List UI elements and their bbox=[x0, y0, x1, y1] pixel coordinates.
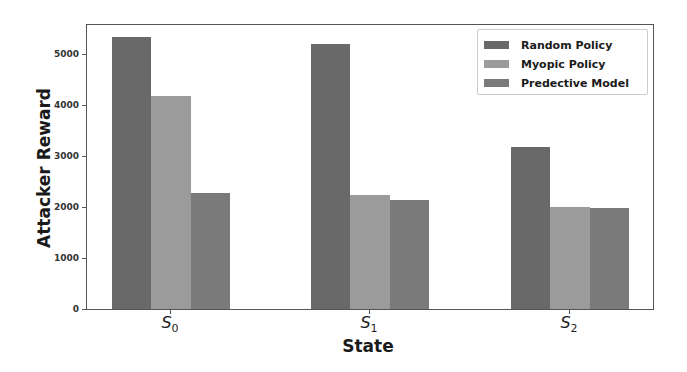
y-axis-label: Attacker Reward bbox=[34, 88, 54, 248]
y-tick-label: 0 bbox=[0, 304, 79, 314]
legend-swatch bbox=[484, 60, 509, 68]
legend-label: Myopic Policy bbox=[521, 58, 606, 71]
bar-myopic-policy-s1 bbox=[350, 195, 390, 309]
bar-predective-model-s0 bbox=[191, 193, 231, 309]
y-tick-label: 1000 bbox=[0, 253, 79, 263]
legend-item: Myopic Policy bbox=[484, 56, 606, 72]
y-tick-label: 4000 bbox=[0, 100, 79, 110]
x-tick-label: S0 bbox=[161, 313, 178, 335]
legend-item: Predective Model bbox=[484, 75, 629, 91]
x-axis-label: State bbox=[342, 336, 394, 356]
x-tick-label: S2 bbox=[560, 313, 577, 335]
y-tick-label: 3000 bbox=[0, 151, 79, 161]
bar-random-policy-s2 bbox=[511, 147, 551, 309]
bar-myopic-policy-s2 bbox=[550, 207, 590, 309]
bar-random-policy-s1 bbox=[311, 44, 351, 309]
bar-myopic-policy-s0 bbox=[151, 96, 191, 309]
legend-label: Predective Model bbox=[521, 77, 629, 90]
bar-random-policy-s0 bbox=[112, 37, 152, 309]
bar-predective-model-s1 bbox=[390, 200, 430, 309]
legend-item: Random Policy bbox=[484, 37, 612, 53]
y-tick-label: 5000 bbox=[0, 49, 79, 59]
y-tick-label: 2000 bbox=[0, 202, 79, 212]
legend: Random PolicyMyopic PolicyPredective Mod… bbox=[477, 29, 648, 95]
bar-predective-model-s2 bbox=[590, 208, 630, 309]
x-tick-label: S1 bbox=[360, 313, 377, 335]
legend-label: Random Policy bbox=[521, 39, 612, 52]
legend-swatch bbox=[484, 79, 509, 87]
legend-swatch bbox=[484, 41, 509, 49]
